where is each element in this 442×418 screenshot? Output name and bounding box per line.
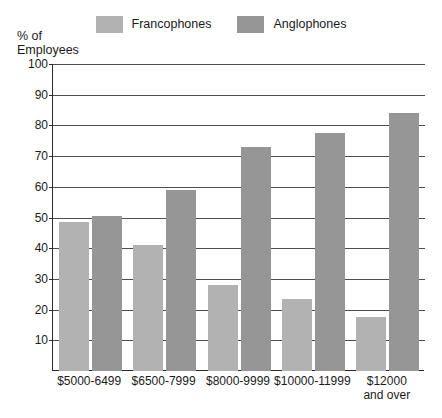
legend-entry: Francophones	[96, 16, 212, 33]
y-tick-label: 50	[8, 212, 48, 224]
y-tick-label: 80	[8, 119, 48, 131]
y-tick-label: 90	[8, 89, 48, 101]
bar	[282, 299, 312, 371]
y-tick-label: 100	[8, 58, 48, 70]
bar	[59, 222, 89, 371]
legend-label: Anglophones	[273, 18, 346, 31]
y-axis-title: % of Employees	[17, 29, 79, 57]
bar	[389, 113, 419, 371]
bar	[92, 216, 122, 371]
legend-entry: Anglophones	[237, 16, 346, 33]
bar	[241, 147, 271, 371]
y-tick-label: 10	[8, 334, 48, 346]
y-tick-label: 20	[8, 304, 48, 316]
legend-label: Francophones	[132, 18, 212, 31]
bar	[133, 245, 163, 371]
y-tick-label: 60	[8, 181, 48, 193]
bars-layer	[53, 64, 425, 371]
x-axis-labels: $5000-6499$6500-7999$8000-9999$10000-119…	[52, 374, 424, 414]
bar	[356, 317, 386, 371]
legend-swatch-icon	[237, 16, 264, 33]
x-tick-label: $12000 and over	[338, 374, 436, 402]
bar	[208, 285, 238, 371]
y-tick-label: 70	[8, 150, 48, 162]
y-tick-label: 30	[8, 273, 48, 285]
bar	[315, 133, 345, 371]
y-tick-label: 40	[8, 242, 48, 254]
bar	[166, 190, 196, 371]
legend-swatch-icon	[96, 16, 123, 33]
bar-chart: FrancophonesAnglophones % of Employees 1…	[0, 0, 442, 418]
plot-area	[52, 64, 424, 371]
